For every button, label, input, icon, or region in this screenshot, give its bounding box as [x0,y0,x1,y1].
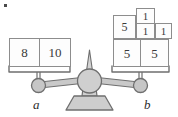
right-knob [134,79,148,93]
balance-scale-figure: 8 10 1 5 1 1 5 5 a b [0,0,178,117]
left-pan-label: a [33,98,40,111]
right-middle-block-0-value: 5 [122,21,128,33]
right-top-block-0-value: 1 [143,11,149,22]
right-middle-block-1: 1 [136,23,155,39]
right-bottom-block-1-value: 5 [151,47,158,60]
right-middle-block-1-value: 1 [143,26,149,37]
right-middle-block-2-value: 1 [161,26,167,37]
left-block-0-value: 8 [21,46,28,59]
right-middle-block-0: 5 [113,15,136,39]
pivot-disc [78,69,102,93]
right-bottom-block-1: 5 [140,39,169,67]
left-block-1: 10 [39,38,71,67]
left-block-1-value: 10 [49,46,62,59]
right-pan-label: b [144,98,151,111]
left-knob [32,79,46,93]
right-top-block-0: 1 [136,8,155,24]
scale-base [66,96,113,110]
right-bottom-block-0: 5 [113,39,141,67]
right-bottom-block-0-value: 5 [124,47,131,60]
left-block-0: 8 [9,38,40,67]
right-middle-block-2: 1 [155,23,172,39]
